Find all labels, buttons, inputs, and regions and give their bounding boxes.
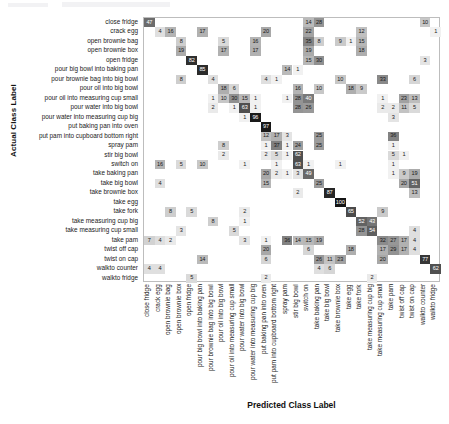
matrix-cell: 2: [271, 169, 282, 178]
column-label: close fridge: [143, 284, 154, 394]
matrix-cell: 97: [261, 122, 272, 131]
matrix-cell: 1: [346, 37, 357, 46]
row-label: twist on cap: [104, 254, 138, 264]
matrix-cell: 2: [261, 274, 272, 283]
column-label: put baking pan into oven: [260, 284, 271, 394]
matrix-cell: 4: [144, 264, 155, 273]
column-label: take fork: [355, 284, 366, 394]
matrix-cell: 23: [399, 94, 410, 103]
row-label: switch on: [111, 159, 138, 169]
matrix-cell: 10: [197, 160, 208, 169]
matrix-cell: 8: [165, 207, 176, 216]
matrix-cell: 1: [388, 160, 399, 169]
matrix-cell: 7: [144, 236, 155, 245]
column-label: walkto fridge: [429, 284, 440, 394]
row-label: pour water into big bowl: [71, 102, 139, 112]
matrix-cell: 37: [271, 141, 282, 150]
matrix-cell: 6: [409, 75, 420, 84]
matrix-cell: 12: [356, 27, 367, 36]
matrix-cell: 5: [186, 207, 197, 216]
matrix-cell: 62: [293, 151, 304, 160]
matrix-cell: 18: [346, 84, 357, 93]
matrix-cell: 1: [239, 160, 250, 169]
matrix-cell: 16: [293, 84, 304, 93]
matrix-cell: 63: [293, 160, 304, 169]
matrix-cell: 35: [303, 37, 314, 46]
matrix-cell: 28: [356, 226, 367, 235]
matrix-cell: 5: [388, 151, 399, 160]
matrix-cell: 9: [399, 169, 410, 178]
matrix-cell: 17: [377, 245, 388, 254]
matrix-cell: 8: [314, 37, 325, 46]
row-label: take measuring cup big: [72, 216, 138, 226]
matrix-cell: 14: [197, 255, 208, 264]
matrix-cell: 1: [399, 151, 410, 160]
matrix-cell: 19: [303, 46, 314, 55]
matrix-cell: 36: [282, 236, 293, 245]
row-label: pour big bowl into baking pan: [55, 64, 138, 74]
matrix-cell: 1: [261, 236, 272, 245]
matrix-cell: 5: [271, 151, 282, 160]
column-label: switch on: [302, 284, 313, 394]
matrix-cell: 9: [356, 84, 367, 93]
matrix-cells: 4714281041617202212185163589115191717191…: [144, 18, 439, 281]
matrix-cell: 15: [239, 94, 250, 103]
matrix-cell: 3: [282, 132, 293, 141]
matrix-cell: 16: [155, 160, 166, 169]
matrix-cell: 4: [155, 264, 166, 273]
matrix-cell: 19: [176, 46, 187, 55]
matrix-cell: 11: [399, 103, 410, 112]
matrix-plot-area[interactable]: 4714281041617202212185163589115191717191…: [143, 17, 440, 282]
matrix-cell: 22: [303, 27, 314, 36]
matrix-cell: 2: [377, 103, 388, 112]
matrix-cell: 96: [250, 113, 261, 122]
matrix-cell: 10: [420, 18, 431, 27]
matrix-cell: 24: [293, 141, 304, 150]
matrix-cell: 1: [388, 141, 399, 150]
matrix-cell: 4: [155, 236, 166, 245]
matrix-cell: 19: [314, 236, 325, 245]
matrix-cell: 1: [239, 113, 250, 122]
matrix-cell: 4: [261, 75, 272, 84]
matrix-cell: 3: [293, 169, 304, 178]
matrix-cell: 1: [282, 141, 293, 150]
column-label: put pam into cupboard bottom right: [270, 284, 281, 394]
row-label: pour oil into big bowl: [80, 83, 138, 93]
matrix-cell: 25: [314, 179, 325, 188]
column-label: open brownie box: [175, 284, 186, 394]
matrix-cell: 8: [176, 75, 187, 84]
matrix-cell: 1: [282, 94, 293, 103]
matrix-cell: 4: [409, 236, 420, 245]
matrix-cell: 52: [356, 217, 367, 226]
matrix-cell: 15: [356, 37, 367, 46]
matrix-cell: 2: [388, 103, 399, 112]
row-label: spray pam: [108, 140, 138, 150]
row-label: take baking pan: [93, 168, 138, 178]
matrix-cell: 20: [377, 255, 388, 264]
matrix-cell: 10: [335, 75, 346, 84]
column-label: take pam: [387, 284, 398, 394]
matrix-cell: 18: [218, 84, 229, 93]
column-label: open brownie bag: [164, 284, 175, 394]
matrix-cell: 36: [388, 132, 399, 141]
row-label: put baking pan into oven: [68, 121, 138, 131]
matrix-cell: 10: [314, 84, 325, 93]
matrix-cell: 54: [367, 226, 378, 235]
matrix-cell: 25: [314, 132, 325, 141]
matrix-cell: 4: [155, 179, 166, 188]
matrix-cell: 32: [377, 236, 388, 245]
matrix-cell: 65: [346, 207, 357, 216]
row-label: walkto counter: [97, 263, 138, 273]
matrix-cell: 26: [303, 103, 314, 112]
matrix-cell: 15: [261, 179, 272, 188]
matrix-cell: 25: [314, 141, 325, 150]
matrix-cell: 3: [388, 113, 399, 122]
matrix-cell: 6: [303, 245, 314, 254]
matrix-cell: 17: [250, 46, 261, 55]
matrix-cell: 27: [388, 236, 399, 245]
matrix-cell: 47: [144, 18, 155, 27]
row-label: take pam: [112, 235, 138, 245]
x-axis-title: Predicted Class Label: [143, 400, 440, 410]
row-label: pour water into measuring cup big: [42, 112, 138, 122]
matrix-cell: 4: [409, 245, 420, 254]
